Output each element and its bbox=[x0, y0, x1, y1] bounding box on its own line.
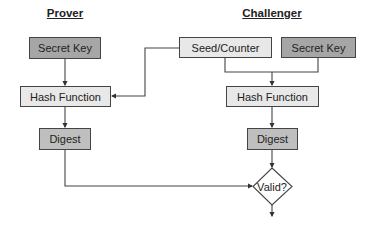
prover-secret-key-box: Secret Key bbox=[29, 37, 101, 59]
challenger-secret-key-box: Secret Key bbox=[281, 37, 356, 58]
challenger-hash-function-box: Hash Function bbox=[226, 86, 319, 107]
prover-digest-box: Digest bbox=[39, 128, 91, 150]
challenger-seed-counter-box: Seed/Counter bbox=[179, 37, 272, 58]
challenger-digest-box: Digest bbox=[247, 128, 298, 150]
decision-label: Valid? bbox=[257, 181, 287, 193]
challenger-title: Challenger bbox=[242, 7, 301, 19]
connector-lines bbox=[0, 0, 373, 227]
prover-hash-function-box: Hash Function bbox=[20, 86, 111, 107]
prover-title: Prover bbox=[47, 7, 83, 19]
